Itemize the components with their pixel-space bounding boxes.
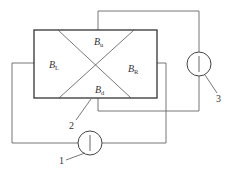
leader-3 bbox=[205, 75, 217, 93]
leader-1 bbox=[66, 153, 85, 160]
source-1-icon bbox=[78, 131, 102, 155]
callout-2: 2 bbox=[69, 120, 74, 131]
callout-3: 3 bbox=[216, 93, 221, 104]
leader-2 bbox=[76, 99, 91, 120]
callout-1: 1 bbox=[59, 155, 64, 166]
source-3-icon bbox=[187, 52, 211, 76]
diagram-canvas: Bu BL BR Bd 2 1 3 bbox=[0, 0, 233, 182]
